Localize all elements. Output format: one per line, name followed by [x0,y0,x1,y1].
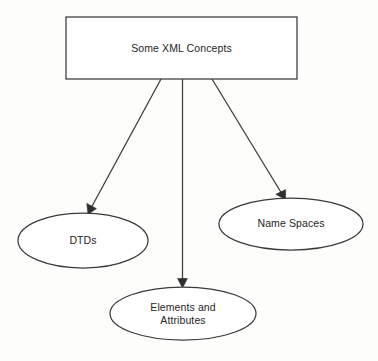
edge-root-to-name-spaces [212,79,286,200]
xml-concepts-diagram: Some XML Concepts DTDs Elements and Attr… [0,0,378,361]
edge-line-dtds [91,79,162,209]
node-some-xml-concepts[interactable]: Some XML Concepts [66,17,297,79]
node-label-elements-line2: Attributes [160,314,205,326]
diagram-canvas: Some XML Concepts DTDs Elements and Attr… [0,0,378,361]
edge-line-namespaces [212,79,282,194]
node-label-elements-line1: Elements and [150,301,215,313]
node-label-name-spaces: Name Spaces [257,217,324,229]
node-dtds[interactable]: DTDs [18,213,148,268]
edge-root-to-elements-and-attributes [178,79,188,288]
edge-root-to-dtds [87,79,161,215]
node-label-dtds: DTDs [69,234,96,246]
node-name-spaces[interactable]: Name Spaces [219,198,363,250]
node-label-some-xml-concepts: Some XML Concepts [131,42,232,54]
node-elements-and-attributes[interactable]: Elements and Attributes [110,287,256,340]
